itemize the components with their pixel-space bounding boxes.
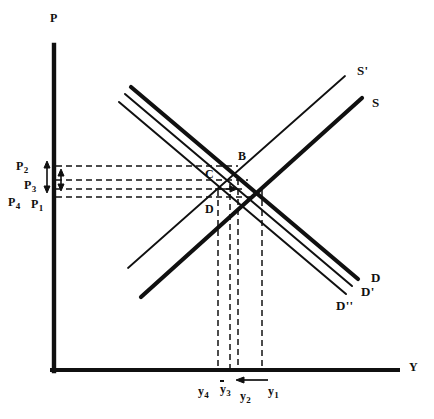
price-label-p3-sub: 3 — [32, 184, 37, 194]
quantity-label-y3: y3 — [220, 383, 231, 398]
supply-s-label: S — [372, 96, 380, 109]
quantity-shift-arrow-head — [236, 377, 244, 383]
y-axis-label: P — [50, 12, 58, 24]
price-gap-arrow-head-up-left — [44, 161, 50, 168]
quantity-label-y2: y2 — [240, 390, 251, 405]
price-label-p4-sub: 4 — [16, 201, 21, 211]
quantity-label-y3-sub: 3 — [226, 388, 231, 398]
price-label-p3: P3 — [24, 179, 36, 194]
quantity-label-y1: y1 — [268, 385, 279, 400]
point-c-label: C — [205, 168, 214, 180]
quantity-label-y4: y4 — [198, 385, 209, 400]
price-label-p4-base: P — [8, 195, 16, 209]
demand-curve-d-prime — [125, 94, 352, 286]
x-axis-label: Y — [409, 361, 418, 373]
demand-d-prime-label: D' — [361, 285, 375, 298]
quantity-label-y4-sub: 4 — [204, 390, 209, 400]
demand-d-label: D — [371, 271, 381, 284]
price-label-p3-base: P — [24, 178, 32, 192]
price-gap-arrow-head-up-right — [58, 169, 64, 176]
quantity-label-y3-base: y — [220, 383, 226, 395]
supply-s-prime-label: S' — [357, 64, 368, 77]
price-label-p2-sub: 2 — [24, 165, 29, 175]
price-gap-arrow-head-down-left — [44, 186, 50, 193]
price-label-p2: P2 — [16, 160, 28, 175]
supply-demand-figure: P Y S' S D D' D'' B C D P2 P3 P4 P1 y4 y… — [0, 0, 434, 419]
demand-curve-d — [131, 87, 358, 279]
price-label-p2-base: P — [16, 159, 24, 173]
price-label-p1-base: P — [31, 197, 39, 211]
demand-curve-d-double-prime — [119, 102, 346, 294]
price-gap-arrow-head-down-right — [58, 184, 64, 191]
demand-d-double-prime-label: D'' — [336, 299, 354, 312]
axes-group — [52, 45, 398, 371]
figure-canvas — [0, 0, 434, 419]
price-label-p1: P1 — [31, 198, 43, 213]
price-label-p4: P4 — [8, 196, 20, 211]
point-b-label: B — [238, 150, 246, 162]
price-label-p1-sub: 1 — [39, 203, 44, 213]
quantity-label-y1-sub: 1 — [274, 390, 279, 400]
quantity-label-y2-sub: 2 — [246, 395, 251, 405]
quantity-shift-left-arrow — [236, 377, 268, 383]
point-d-label: D — [205, 203, 214, 215]
